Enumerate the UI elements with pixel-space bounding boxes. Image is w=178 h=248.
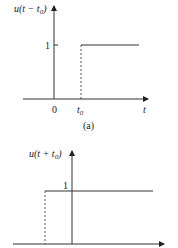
plot-b-ytick-label: 1 bbox=[63, 180, 68, 191]
plot-a-ytick-label: 1 bbox=[45, 40, 50, 51]
plot-a-xlabel: t bbox=[143, 104, 146, 115]
plot-b: u(t + t0) 1 bbox=[13, 148, 164, 244]
plot-a: u(t − t0) 1 0 t0 t (a) bbox=[14, 3, 148, 132]
plot-a-caption: (a) bbox=[83, 120, 94, 132]
plot-a-ylabel: u(t − t0) bbox=[14, 3, 47, 16]
plot-b-ylabel: u(t + t0) bbox=[29, 148, 62, 161]
plot-a-xtick-origin: 0 bbox=[52, 104, 57, 115]
plot-a-xtick-t0: t0 bbox=[77, 104, 84, 117]
step-function-diagram: u(t − t0) 1 0 t0 t (a) u(t + t0) 1 bbox=[0, 0, 178, 248]
